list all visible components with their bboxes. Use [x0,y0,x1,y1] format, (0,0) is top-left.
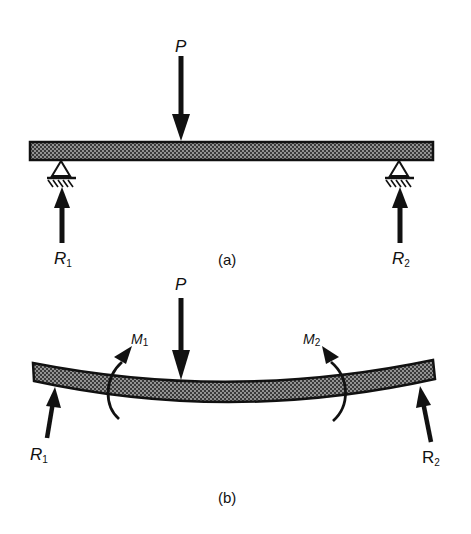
moment-label-m2: M2 [303,331,321,348]
reaction-arrow-r1 [54,187,70,243]
panel-a: P [30,37,433,269]
pin-support-right-icon [385,161,414,187]
load-arrow-p-b [172,298,190,380]
caption-b: (b) [218,489,236,506]
reaction-label-r1: R1 [54,249,72,269]
reaction-arrow-r2 [392,187,408,243]
reaction-label-r2: R2 [392,249,410,269]
load-label-p-b: P [175,275,187,294]
reaction-label-r2-b: R2 [422,448,440,468]
panel-b: P M1 M2 R1 [30,275,440,506]
reaction-label-r1-b: R1 [30,445,48,465]
caption-a: (a) [218,251,236,268]
deflected-beam [33,360,435,402]
pin-support-left-icon [47,161,76,187]
moment-label-m1: M1 [131,331,149,348]
beam-diagram: P [0,0,471,534]
reaction-arrow-r2-b [416,386,431,442]
load-arrow-p [172,56,190,141]
load-label-p: P [175,37,187,56]
reaction-arrow-r1-b [46,387,61,438]
straight-beam [30,142,433,160]
